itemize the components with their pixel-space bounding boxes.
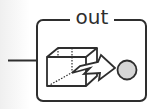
block-title: out [70,6,114,30]
diagram-canvas: out [0,0,155,109]
output-port-circle[interactable] [118,61,137,80]
